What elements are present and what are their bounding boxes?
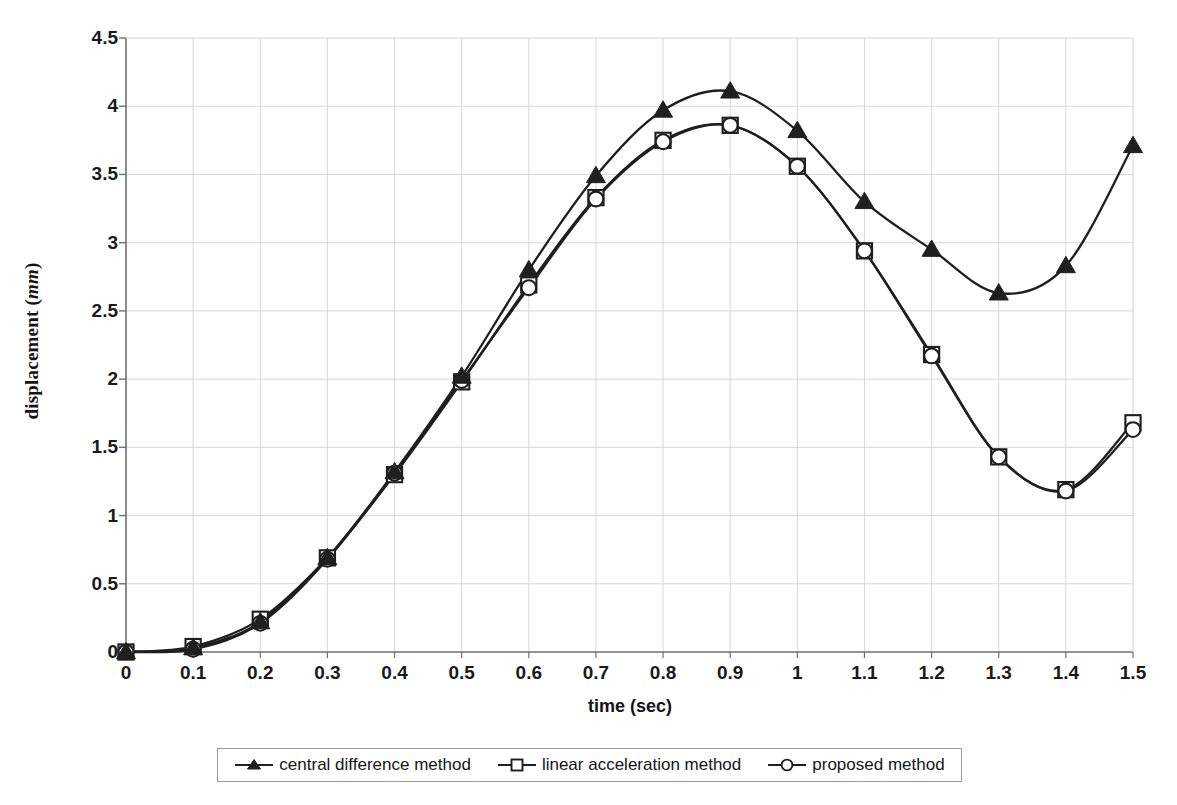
- legend-entry[interactable]: linear acceleration method: [497, 755, 741, 775]
- marker-filled-triangle: [788, 121, 807, 137]
- marker-filled-triangle: [519, 260, 538, 276]
- y-tick-label: 2: [48, 368, 118, 390]
- series-markers-central-difference-method: [117, 82, 1143, 659]
- marker-open-circle: [790, 159, 805, 174]
- plot-area: [126, 38, 1133, 652]
- legend-marker-open-circle: [782, 760, 793, 771]
- y-axis-title-unit: mm: [21, 269, 42, 299]
- marker-open-circle: [857, 243, 872, 258]
- marker-open-circle: [1126, 422, 1141, 437]
- x-axis-title: time (sec): [126, 696, 1134, 717]
- legend-label: central difference method: [279, 755, 471, 775]
- series-proposed-method: [126, 124, 1133, 652]
- series-line: [126, 124, 1133, 652]
- x-tick-label: 1.5: [1093, 662, 1173, 684]
- marker-open-circle: [1058, 484, 1073, 499]
- chart-legend: central difference methodlinear accelera…: [217, 748, 962, 782]
- y-tick-label: 4.5: [48, 27, 118, 49]
- y-tick-label: 0: [48, 641, 118, 663]
- y-tick-label: 4: [48, 95, 118, 117]
- marker-filled-triangle: [1124, 136, 1143, 152]
- legend-open-circle-icon: [767, 757, 807, 773]
- y-axis-tick-labels: 00.511.522.533.544.5: [40, 38, 118, 652]
- y-tick-label: 1.5: [48, 436, 118, 458]
- marker-open-circle: [521, 280, 536, 295]
- legend-open-square-icon: [497, 757, 537, 773]
- y-tick-label: 3.5: [48, 163, 118, 185]
- marker-open-circle: [589, 192, 604, 207]
- legend-label: proposed method: [812, 755, 944, 775]
- legend-entry[interactable]: proposed method: [767, 755, 944, 775]
- marker-open-circle: [723, 118, 738, 133]
- marker-open-circle: [656, 134, 671, 149]
- chart-canvas: [126, 38, 1133, 652]
- legend-label: linear acceleration method: [542, 755, 741, 775]
- marker-open-circle: [924, 349, 939, 364]
- series-linear-acceleration-method: [126, 124, 1133, 652]
- chart-figure: displacement (mm) 00.511.522.533.544.5 0…: [0, 0, 1177, 805]
- x-axis-tick-labels: 00.10.20.30.40.50.60.70.80.911.11.21.31.…: [126, 662, 1133, 692]
- legend-entry[interactable]: central difference method: [234, 755, 471, 775]
- legend-filled-triangle-icon: [234, 757, 274, 773]
- y-tick-label: 1: [48, 505, 118, 527]
- marker-open-circle: [991, 449, 1006, 464]
- y-tick-label: 0.5: [48, 573, 118, 595]
- series-line: [126, 124, 1133, 652]
- y-axis-title-text: displacement (: [21, 299, 42, 419]
- y-tick-label: 2.5: [48, 300, 118, 322]
- y-axis-title-paren: ): [21, 263, 42, 270]
- marker-filled-triangle: [654, 101, 673, 117]
- legend-marker-open-square: [511, 760, 522, 771]
- y-tick-label: 3: [48, 232, 118, 254]
- series-markers-linear-acceleration-method: [118, 118, 1140, 660]
- series-markers-proposed-method: [119, 118, 1141, 659]
